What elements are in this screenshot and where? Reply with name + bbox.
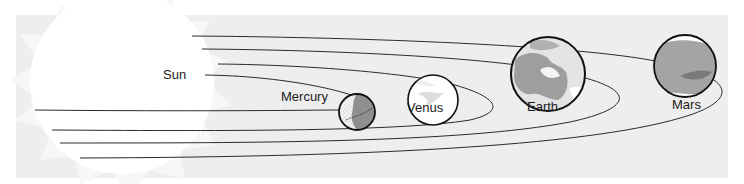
solar-system-diagram: Sun Mercury Venus Earth Mars <box>0 0 744 184</box>
label-sun: Sun <box>163 67 186 82</box>
label-mars: Mars <box>672 97 701 112</box>
label-venus: Venus <box>407 100 443 115</box>
label-mercury: Mercury <box>281 89 328 104</box>
diagram-canvas <box>0 0 744 184</box>
label-earth: Earth <box>527 99 558 114</box>
